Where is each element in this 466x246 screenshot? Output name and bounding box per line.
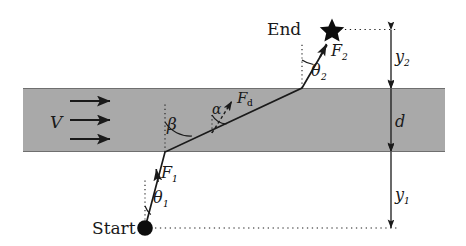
physics-diagram: Start End V F 1 F 2 F d θ 1 θ 2 β α d y … (0, 0, 466, 246)
theta-start-subscript: 1 (163, 199, 169, 209)
theta-end-symbol: θ (311, 61, 321, 80)
theta-end-label: θ 2 (311, 61, 327, 82)
force-drag-subscript: d (247, 98, 253, 108)
start-marker (137, 220, 153, 236)
force-start-subscript: 1 (172, 174, 178, 184)
force-start-arrow (156, 169, 158, 182)
dist-lower-subscript: 1 (404, 196, 410, 206)
force-end-label: F 2 (330, 41, 348, 62)
band-width-label: d (395, 112, 405, 131)
velocity-label: V (50, 112, 64, 132)
dist-upper-subscript: 2 (403, 58, 410, 68)
dist-lower-label: y 1 (394, 185, 410, 206)
force-end-arrow (320, 44, 327, 57)
dist-upper-label: y 2 (394, 47, 410, 68)
start-label: Start (92, 218, 136, 238)
theta-start-symbol: θ (153, 188, 163, 207)
force-start-label: F 1 (160, 163, 178, 184)
alpha-label: α (212, 101, 222, 117)
force-end-subscript: 2 (341, 52, 348, 62)
beta-label: β (166, 114, 177, 134)
end-label: End (267, 19, 301, 39)
diagram-canvas: Start End V F 1 F 2 F d θ 1 θ 2 β α d y … (0, 0, 466, 246)
theta-start-label: θ 1 (153, 188, 169, 209)
theta-end-subscript: 2 (320, 72, 327, 82)
